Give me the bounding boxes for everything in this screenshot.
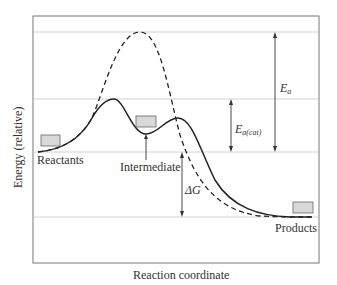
energy-diagram: Reactants Intermediate Products Ea Ea(ca… — [0, 0, 337, 285]
delta-g-arrowhead-down-icon — [180, 211, 184, 217]
products-label: Products — [275, 221, 317, 235]
ea-arrowhead-up-icon — [273, 32, 277, 38]
intermediate-label: Intermediate — [120, 160, 181, 174]
ea-arrowhead-down-icon — [273, 146, 277, 152]
intermediate-arrowhead-icon — [144, 134, 148, 139]
y-axis-label: Energy (relative) — [11, 107, 25, 188]
ea-cat-label: Ea(cat) — [234, 122, 262, 137]
delta-g-label: ΔG — [184, 183, 201, 197]
delta-g-arrowhead-up-icon — [180, 152, 184, 158]
reactants-label: Reactants — [37, 153, 84, 167]
ea-cat-arrowhead-up-icon — [229, 99, 233, 105]
uncatalyzed-curve — [38, 32, 312, 217]
products-box — [293, 202, 313, 213]
reactants-box — [41, 135, 60, 146]
x-axis-label: Reaction coordinate — [133, 268, 229, 282]
ea-label: Ea — [279, 81, 291, 96]
ea-cat-arrowhead-down-icon — [229, 146, 233, 152]
intermediate-box — [136, 116, 156, 127]
